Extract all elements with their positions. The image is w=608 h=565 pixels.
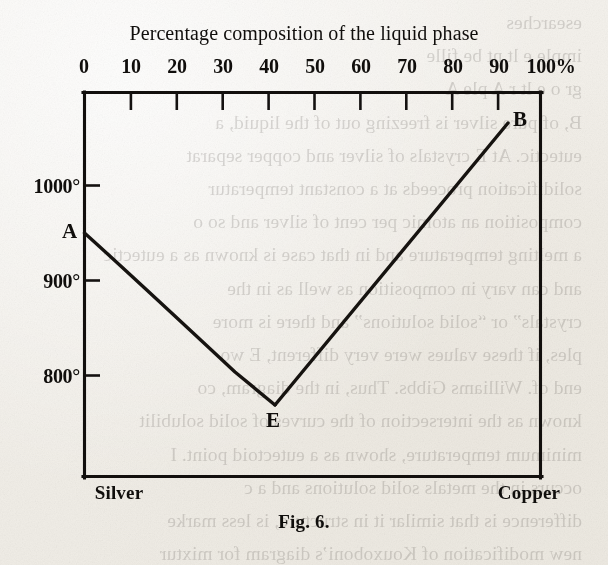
axis-label-copper: Copper xyxy=(498,482,560,504)
x-tick-label-10: 10 xyxy=(121,55,141,78)
x-tick-label-40: 40 xyxy=(259,55,279,78)
axis-label-silver: Silver xyxy=(95,482,144,504)
y-tick-label-1000: 1000° xyxy=(0,175,80,198)
phase-diagram-figure: Percentage composition of the liquid pha… xyxy=(0,0,608,565)
copper-liquidus-curve xyxy=(275,123,508,405)
x-tick-label-80: 80 xyxy=(443,55,463,78)
y-tick-label-800: 800° xyxy=(0,365,80,388)
x-tick-label-100: 100% xyxy=(526,55,575,78)
x-tick-label-50: 50 xyxy=(305,55,325,78)
x-tick-marks xyxy=(131,93,498,110)
y-tick-marks xyxy=(85,186,100,376)
y-tick-label-900: 900° xyxy=(0,270,80,293)
silver-liquidus-curve xyxy=(85,233,276,405)
axis-frame xyxy=(83,92,542,478)
plot-canvas xyxy=(0,0,608,565)
point-label-E: E xyxy=(266,408,280,433)
x-tick-label-60: 60 xyxy=(351,55,371,78)
x-tick-label-90: 90 xyxy=(489,55,509,78)
figure-caption: Fig. 6. xyxy=(0,511,608,533)
point-label-A: A xyxy=(62,219,77,244)
x-tick-label-0: 0 xyxy=(79,55,89,78)
x-tick-label-30: 30 xyxy=(213,55,233,78)
point-label-B: B xyxy=(513,107,527,132)
x-tick-label-20: 20 xyxy=(167,55,187,78)
x-tick-label-70: 70 xyxy=(397,55,417,78)
